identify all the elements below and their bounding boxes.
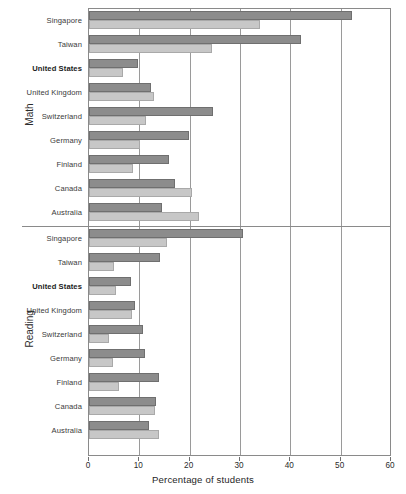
- bar-dark: [89, 397, 156, 406]
- x-tick-label-30: 30: [234, 461, 243, 470]
- bar-light: [89, 20, 260, 29]
- bar-dark: [89, 349, 145, 358]
- bar-light: [89, 92, 154, 101]
- bar-row: [89, 251, 391, 275]
- bar-row: [89, 275, 391, 299]
- panel-label-text: Reading: [24, 318, 35, 348]
- category-label-united-states: United States: [0, 282, 82, 291]
- bar-light: [89, 238, 167, 247]
- category-label-singapore: Singapore: [0, 16, 82, 25]
- bar-row: [89, 9, 391, 33]
- bar-row: [89, 105, 391, 129]
- category-label-singapore: Singapore: [0, 234, 82, 243]
- bar-row: [89, 201, 391, 225]
- bar-row: [89, 153, 391, 177]
- bar-light: [89, 406, 155, 415]
- x-tick-label-10: 10: [134, 461, 143, 470]
- grouped-bar-chart: SingaporeTaiwanUnited StatesUnited Kingd…: [0, 0, 406, 494]
- bar-light: [89, 164, 133, 173]
- bar-light: [89, 262, 114, 271]
- bar-light: [89, 286, 116, 295]
- category-label-australia: Australia: [0, 426, 82, 435]
- bar-light: [89, 430, 159, 439]
- bar-row: [89, 419, 391, 443]
- category-label-united-kingdom: United Kingdom: [0, 306, 82, 315]
- bar-row: [89, 177, 391, 201]
- bar-light: [89, 358, 113, 367]
- bar-row: [89, 347, 391, 371]
- category-label-australia: Australia: [0, 208, 82, 217]
- bar-light: [89, 334, 109, 343]
- bar-dark: [89, 155, 169, 164]
- bar-dark: [89, 107, 213, 116]
- bar-row: [89, 371, 391, 395]
- bar-light: [89, 310, 132, 319]
- bar-rows: [89, 9, 391, 455]
- bar-light: [89, 68, 123, 77]
- category-label-canada: Canada: [0, 184, 82, 193]
- x-tick-label-0: 0: [86, 461, 91, 470]
- x-axis-title: Percentage of students: [0, 474, 406, 485]
- bar-row: [89, 57, 391, 81]
- bar-dark: [89, 35, 301, 44]
- bar-row: [89, 323, 391, 347]
- bar-dark: [89, 11, 352, 20]
- panel-label-math: Math: [14, 109, 44, 120]
- bar-light: [89, 382, 119, 391]
- x-tick-label-60: 60: [385, 461, 394, 470]
- bar-dark: [89, 203, 162, 212]
- x-tick-label-20: 20: [184, 461, 193, 470]
- bar-dark: [89, 229, 243, 238]
- bar-dark: [89, 421, 149, 430]
- category-label-taiwan: Taiwan: [0, 40, 82, 49]
- bar-light: [89, 116, 146, 125]
- bar-dark: [89, 301, 135, 310]
- bar-row: [89, 227, 391, 251]
- bar-light: [89, 188, 192, 197]
- panel-label-reading: Reading: [14, 327, 44, 338]
- category-label-united-kingdom: United Kingdom: [0, 88, 82, 97]
- bar-row: [89, 33, 391, 57]
- category-label-finland: Finland: [0, 378, 82, 387]
- panel-label-text: Math: [24, 100, 35, 130]
- bar-dark: [89, 373, 159, 382]
- category-label-united-states: United States: [0, 64, 82, 73]
- bar-dark: [89, 325, 143, 334]
- bar-row: [89, 129, 391, 153]
- x-tick-label-40: 40: [285, 461, 294, 470]
- bar-dark: [89, 253, 160, 262]
- bar-row: [89, 81, 391, 105]
- category-label-canada: Canada: [0, 402, 82, 411]
- bar-dark: [89, 277, 131, 286]
- bar-light: [89, 140, 140, 149]
- bar-dark: [89, 59, 138, 68]
- bar-row: [89, 299, 391, 323]
- category-label-taiwan: Taiwan: [0, 258, 82, 267]
- bar-row: [89, 395, 391, 419]
- bar-light: [89, 212, 199, 221]
- bar-light: [89, 44, 212, 53]
- x-axis: 0102030405060: [88, 457, 392, 473]
- category-label-germany: Germany: [0, 354, 82, 363]
- category-label-finland: Finland: [0, 160, 82, 169]
- bar-dark: [89, 179, 175, 188]
- category-label-germany: Germany: [0, 136, 82, 145]
- bar-dark: [89, 131, 189, 140]
- x-tick-label-50: 50: [335, 461, 344, 470]
- bar-dark: [89, 83, 151, 92]
